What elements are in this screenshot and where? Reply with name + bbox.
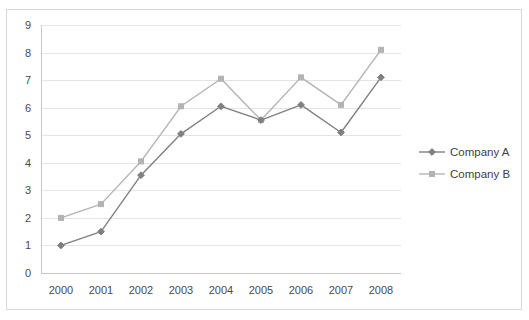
x-axis-tick-label: 2003 — [169, 284, 193, 296]
y-axis-tick-label: 9 — [25, 19, 31, 31]
y-axis-tick-label: 3 — [25, 184, 31, 196]
legend-item-company-b: Company B — [419, 168, 510, 180]
series-company-b — [59, 47, 384, 220]
legend-marker — [430, 172, 435, 177]
y-axis-tick-label: 0 — [25, 267, 31, 279]
series-company-a — [58, 74, 385, 249]
data-point-marker — [179, 104, 184, 109]
x-axis-tick-label: 2006 — [289, 284, 313, 296]
legend-marker — [429, 149, 436, 156]
gridlines — [41, 26, 401, 274]
y-axis-tick-label: 8 — [25, 47, 31, 59]
data-point-marker — [219, 76, 224, 81]
series-line — [61, 50, 381, 218]
x-axis-tick-label: 2000 — [49, 284, 73, 296]
y-axis-tick-label: 6 — [25, 102, 31, 114]
x-axis-tick-label: 2002 — [129, 284, 153, 296]
x-axis-tick-label: 2005 — [249, 284, 273, 296]
data-point-marker — [379, 47, 384, 52]
data-point-marker — [99, 202, 104, 207]
legend-item-company-a: Company A — [419, 146, 510, 158]
x-axis-tick-label: 2004 — [209, 284, 233, 296]
x-axis-tick-label: 2007 — [329, 284, 353, 296]
data-point-marker — [299, 75, 304, 80]
y-axis-tick-labels: 0123456789 — [25, 19, 31, 279]
x-axis-tick-label: 2001 — [89, 284, 113, 296]
y-axis-tick-label: 2 — [25, 212, 31, 224]
data-point-marker — [339, 102, 344, 107]
legend-label: Company A — [450, 146, 510, 158]
legend-label: Company B — [450, 168, 510, 180]
axis-lines — [41, 25, 401, 274]
data-point-marker — [58, 242, 65, 249]
y-axis-tick-label: 7 — [25, 74, 31, 86]
data-point-marker — [139, 159, 144, 164]
x-axis-tick-label: 2008 — [369, 284, 393, 296]
line-chart: 0123456789 20002001200220032004200520062… — [7, 10, 523, 311]
y-axis-tick-label: 5 — [25, 129, 31, 141]
data-point-marker — [59, 215, 64, 220]
chart-container: 0123456789 20002001200220032004200520062… — [6, 9, 522, 310]
y-axis-tick-label: 1 — [25, 239, 31, 251]
x-axis-tick-labels: 200020012002200320042005200620072008 — [49, 284, 393, 296]
chart-legend: Company ACompany B — [419, 146, 510, 180]
y-axis-tick-label: 4 — [25, 157, 31, 169]
